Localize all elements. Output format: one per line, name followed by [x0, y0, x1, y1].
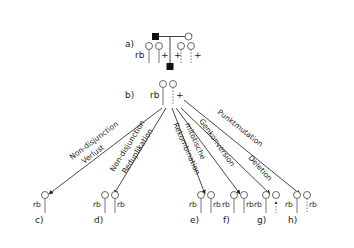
allele-wt: +	[176, 90, 184, 100]
panel-h-label: h)	[288, 215, 297, 225]
allele-2: rb	[246, 200, 254, 209]
panel-h: rb rb h)	[285, 192, 317, 226]
allele-1: rb	[93, 200, 101, 209]
panel-b-label: b)	[125, 90, 134, 100]
chromosome-rb	[160, 81, 167, 88]
affected-father-square	[152, 33, 159, 40]
panel-d: rb rb d)	[93, 192, 125, 226]
chromosome	[42, 192, 49, 199]
affected-child-square	[167, 63, 174, 70]
panel-g: rb g)	[254, 192, 280, 226]
chromosome-2	[241, 192, 248, 199]
father-allele-wt: +	[161, 50, 169, 60]
allele-rb: rb	[150, 90, 160, 100]
allele-1: rb	[254, 200, 262, 209]
chromosome-2-deleted	[273, 192, 280, 199]
allele-2: rb	[117, 200, 125, 209]
panel-a-label: a)	[125, 39, 134, 49]
arrow-to-c	[49, 108, 162, 194]
chromosome-1	[102, 192, 109, 199]
chromosome-1	[263, 192, 270, 199]
deletion-marker-icon	[275, 201, 278, 204]
allele-1: rb	[189, 200, 197, 209]
allele-2: rb	[213, 200, 221, 209]
allele-1: rb	[285, 200, 293, 209]
chromosome-1	[231, 192, 238, 199]
panel-e: rb rb e)	[189, 192, 221, 226]
loss-of-heterozygosity-diagram: a) rb + + + b) rb +	[0, 0, 354, 248]
mother-circle	[185, 33, 192, 40]
father-allele-rb: rb	[135, 50, 145, 60]
father-chromosome-1	[146, 43, 153, 50]
chromosome-1	[294, 192, 301, 199]
panel-d-label: d)	[94, 215, 103, 225]
allele-2: rb	[309, 200, 317, 209]
allele-1: rb	[222, 200, 230, 209]
chromosome-wt	[170, 81, 177, 88]
chromosome-2	[208, 192, 215, 199]
chromosome-2	[304, 192, 311, 199]
mother-allele-wt-2: +	[194, 50, 202, 60]
panel-e-label: e)	[190, 215, 199, 225]
panel-f-label: f)	[223, 215, 230, 225]
panel-b: b) rb +	[125, 81, 184, 106]
mother-allele-wt-1: +	[174, 50, 182, 60]
panel-g-label: g)	[257, 215, 266, 225]
label-g: Deletion	[247, 153, 275, 183]
panel-c-label: c)	[35, 215, 43, 225]
father-chromosome-2	[156, 43, 163, 50]
panel-f: rb rb f)	[222, 192, 254, 226]
chromosome-2	[112, 192, 119, 199]
mother-chromosome-1	[178, 43, 185, 50]
pedigree-panel-a: a) rb + + +	[125, 33, 202, 70]
panel-c: rb c)	[33, 192, 49, 226]
allele: rb	[33, 200, 41, 209]
chromosome-1	[198, 192, 205, 199]
mechanism-labels: Non-disjunction Verlust Non-disjunction …	[68, 107, 275, 182]
mother-chromosome-2	[188, 43, 195, 50]
